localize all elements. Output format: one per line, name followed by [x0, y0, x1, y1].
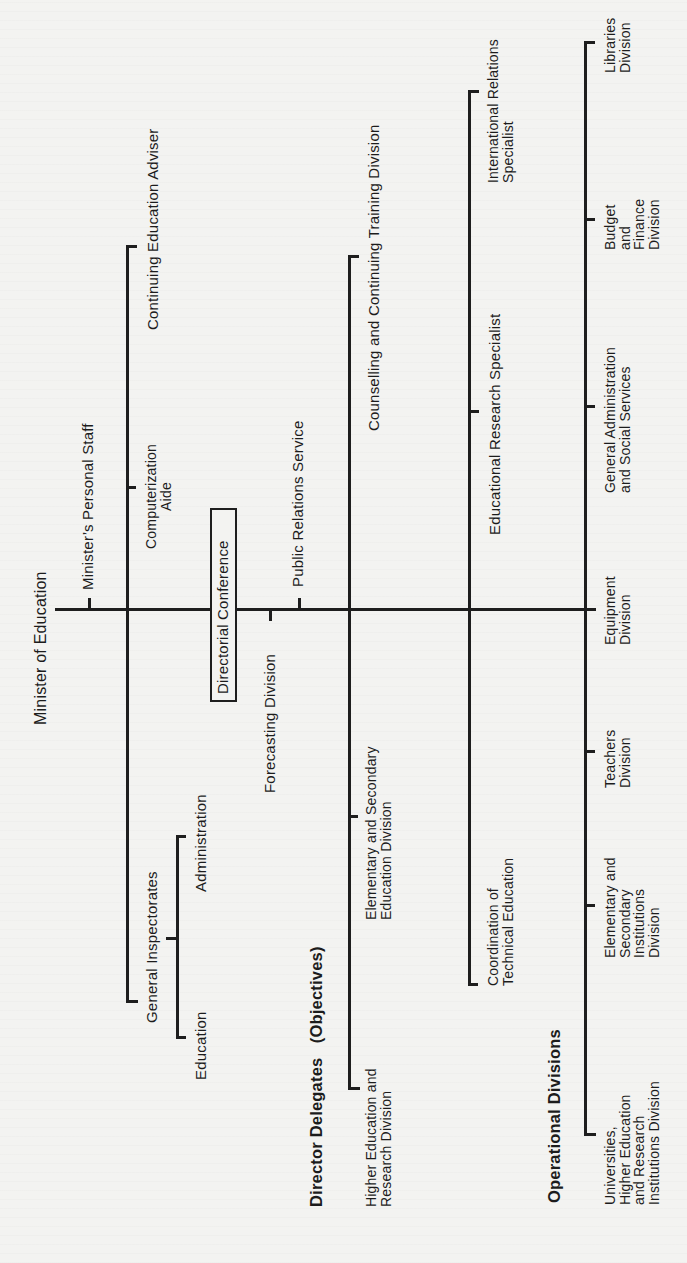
continuing-education-adviser-label: Continuing Education Adviser: [145, 128, 160, 330]
elementary-institutions-label: Elementary and Secondary Institutions Di…: [603, 857, 661, 958]
elementary-institutions-tick: [584, 904, 595, 907]
higher-education-research-label: Higher Education and Research Division: [364, 1068, 393, 1207]
public-relations-tick: [298, 598, 301, 609]
counselling-bracket: [348, 255, 359, 258]
education-bracket: [176, 1036, 186, 1039]
advisory-column-line: [126, 246, 129, 1003]
higher-education-bracket: [348, 1087, 360, 1090]
international-relations-label: International Relations Specialist: [486, 39, 515, 183]
inspectorates-sub-tick: [166, 937, 177, 940]
directorial-conference-label: Directorial Conference: [215, 540, 230, 694]
administration-bracket: [176, 835, 186, 838]
general-inspectorates-label: General Inspectorates: [144, 871, 159, 1023]
director-delegates-line: [348, 256, 351, 1089]
general-admin-tick: [584, 405, 595, 408]
coordination-technical-education-label: Coordination of Technical Education: [486, 858, 515, 986]
forecasting-division-label: Forecasting Division: [262, 654, 277, 793]
public-relations-service-label: Public Relations Service: [290, 420, 305, 587]
libraries-bracket: [584, 41, 595, 44]
operational-divisions-line: [584, 42, 587, 1134]
continuing-education-bracket: [126, 245, 137, 248]
education-label: Education: [193, 1011, 208, 1080]
universities-bracket: [584, 1133, 596, 1136]
equipment-tick: [584, 608, 595, 611]
equipment-division-label: Equipment Division: [603, 576, 632, 645]
administration-label: Administration: [193, 794, 208, 892]
org-chart-page: Minister of Education Minister’s Persona…: [0, 0, 687, 1263]
budget-tick: [584, 218, 595, 221]
specialists-line: [468, 91, 471, 985]
operational-divisions-heading: Operational Divisions: [546, 1029, 563, 1203]
minister-of-education-label: Minister of Education: [33, 571, 49, 725]
international-relations-bracket: [468, 90, 479, 93]
main-spine-line: [55, 608, 596, 611]
ministers-personal-staff-label: Minister’s Personal Staff: [80, 423, 95, 590]
elementary-secondary-education-label: Elementary and Secondary Education Divis…: [364, 746, 393, 920]
general-inspectorates-bracket: [126, 1000, 138, 1003]
ministers-staff-tick: [88, 598, 91, 609]
forecasting-tick: [269, 609, 272, 621]
technical-education-bracket: [468, 983, 478, 986]
educational-research-label: Educational Research Specialist: [487, 314, 502, 535]
budget-finance-label: Budget and Finance Division: [603, 199, 661, 250]
libraries-division-label: Libraries Division: [603, 18, 632, 74]
computerization-tick: [126, 486, 136, 489]
elementary-education-tick: [348, 815, 358, 818]
educational-research-tick: [468, 410, 479, 413]
teachers-division-label: Teachers Division: [603, 730, 632, 788]
computerization-aide-label: Computerization Aide: [144, 444, 173, 549]
teachers-tick: [584, 750, 595, 753]
general-administration-label: General Administration and Social Servic…: [603, 347, 632, 493]
universities-division-label: Universities, Higher Education and Resea…: [603, 1081, 661, 1205]
counselling-division-label: Counselling and Continuing Training Divi…: [366, 125, 381, 431]
director-delegates-heading: Director Delegates (Objectives): [308, 946, 325, 1207]
